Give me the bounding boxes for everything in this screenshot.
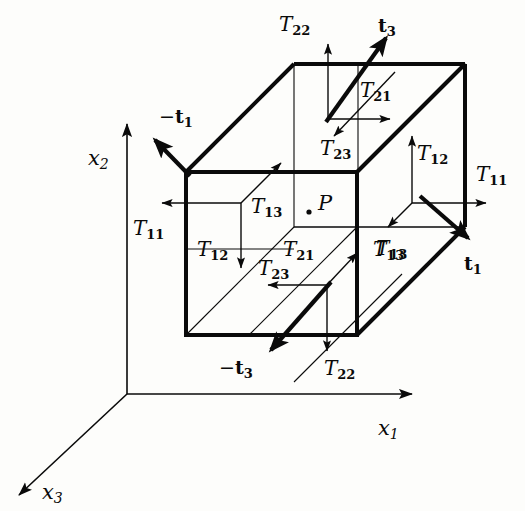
vector-t1-positive-sub: 1 — [473, 262, 482, 277]
stress-T21-top-base: T — [360, 78, 373, 102]
stress-T12-left-sub: 12 — [210, 248, 228, 263]
cube-edge-receding-topleft — [186, 64, 294, 172]
coordinate-axes — [19, 124, 412, 495]
stress-label-T12-right: T12 — [417, 143, 448, 166]
stress-T13-left-sub: 13 — [264, 205, 282, 220]
vector-t3-negative-sign: − — [219, 356, 235, 378]
vector-label-t3-negative: −t3 — [219, 358, 253, 380]
axis-x2-sub: 2 — [100, 156, 109, 172]
stress-T11-left-base: T — [133, 216, 146, 240]
vector-t3-negative-sub: 3 — [244, 366, 253, 381]
vector-t1-negative-base: t — [175, 105, 184, 127]
traction-vectors — [155, 38, 468, 350]
vector-t3-positive-base: t — [378, 14, 387, 36]
stress-T12-right-sub: 12 — [430, 152, 448, 167]
axis-x1-sub: 1 — [390, 426, 399, 442]
stress-T11-right-sub: 11 — [489, 173, 507, 188]
stress-T13-bottom-base: T — [373, 237, 386, 261]
stress-T11-left-sub: 11 — [146, 227, 164, 242]
stress-label-T12-left: T12 — [197, 239, 228, 262]
point-P-base: P — [318, 191, 332, 215]
axis-label-x1: x1 — [378, 418, 399, 441]
stress-label-T11-right: T11 — [476, 164, 507, 187]
vector-label-t1-positive: t1 — [464, 254, 482, 276]
stress-label-T23-bottom: T23 — [258, 258, 289, 281]
stress-T21-bottom-sub: 21 — [296, 248, 314, 263]
stress-T23-top-sub: 23 — [333, 147, 351, 162]
stress-T21-top-sub: 21 — [373, 89, 391, 104]
stress-label-T21-top: T21 — [360, 80, 391, 103]
stress-label-T13-bottom: T13 — [373, 239, 404, 262]
stress-T13-bottom-sub: 13 — [386, 248, 404, 263]
stress-T23-bottom-base: T — [258, 256, 271, 280]
stress-label-T22-top: T22 — [279, 14, 310, 37]
stress-label-T23-top: T23 — [320, 138, 351, 161]
point-P-dot — [306, 209, 311, 214]
axis-label-x2: x2 — [88, 148, 109, 171]
stress-T22-bottom-base: T — [324, 356, 337, 380]
vector-t1-positive-base: t — [464, 252, 473, 274]
axis-x3-base: x — [42, 480, 54, 504]
stress-T23-top-base: T — [320, 136, 333, 160]
stress-label-T11-left: T11 — [133, 218, 164, 241]
arrow-T13-bottom — [327, 253, 357, 285]
stress-T12-right-base: T — [417, 141, 430, 165]
stress-element-figure: x2 x1 x3 P t3 −t1 t1 −t3 T22 T21 T23 T11… — [0, 0, 525, 511]
stress-T23-bottom-sub: 23 — [271, 267, 289, 282]
point-P-label: P — [318, 193, 332, 214]
stress-T22-bottom-sub: 22 — [337, 367, 355, 382]
stress-T13-left-base: T — [251, 194, 264, 218]
vector-t3-positive-sub: 3 — [387, 24, 396, 39]
axis-label-x3: x3 — [42, 482, 63, 505]
vector-t1-negative-sub: 1 — [184, 115, 193, 130]
axis-x2-base: x — [88, 146, 100, 170]
axis-x3-sub: 3 — [54, 490, 63, 506]
vector-label-t3-positive: t3 — [378, 16, 396, 38]
stress-T12-left-base: T — [197, 237, 210, 261]
stress-label-T22-bottom: T22 — [324, 358, 355, 381]
vector-label-t1-negative: −t1 — [159, 107, 193, 129]
vector-t3-negative-base: t — [235, 356, 244, 378]
axis-x1-base: x — [378, 416, 390, 440]
arrow-T13-right — [388, 203, 412, 227]
stress-label-T13-left: T13 — [251, 196, 282, 219]
stress-T11-right-base: T — [476, 162, 489, 186]
axis-x3-line — [19, 394, 127, 495]
stress-T22-top-base: T — [279, 12, 292, 36]
stress-T22-top-sub: 22 — [292, 23, 310, 38]
vector-t1-negative-sign: − — [159, 105, 175, 127]
vector-t1-negative — [155, 140, 190, 176]
vector-t3-negative — [271, 282, 331, 350]
